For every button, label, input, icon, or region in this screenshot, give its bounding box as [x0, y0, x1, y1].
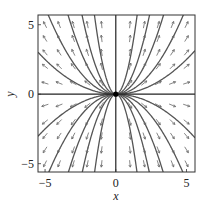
direction-arrow — [169, 81, 175, 84]
direction-arrow — [86, 133, 89, 140]
direction-arrow — [143, 63, 146, 69]
direction-arrow — [185, 161, 188, 167]
direction-arrow — [171, 147, 174, 153]
direction-arrow — [100, 21, 102, 28]
direction-arrow — [184, 50, 188, 55]
direction-arrow — [129, 35, 131, 42]
y-tick-label: −5 — [21, 157, 34, 171]
x-tick-label: 5 — [184, 176, 190, 190]
direction-arrow — [42, 104, 49, 107]
direction-arrow — [57, 50, 61, 56]
direction-arrow — [57, 120, 62, 125]
direction-arrow — [57, 133, 61, 139]
direction-arrow — [185, 36, 189, 42]
direction-arrow — [86, 49, 89, 56]
axis-ticks — [38, 25, 187, 172]
direction-arrow — [58, 21, 61, 27]
direction-arrow — [43, 36, 47, 42]
direction-arrow — [143, 160, 145, 167]
direction-arrow — [169, 104, 175, 107]
direction-arrow — [100, 146, 102, 153]
direction-arrow — [42, 64, 47, 68]
equilibrium-point — [113, 92, 118, 97]
direction-arrow — [72, 133, 75, 139]
direction-arrow — [58, 160, 61, 166]
y-tick-label: 5 — [28, 18, 34, 32]
y-tick-label: 0 — [28, 87, 34, 101]
direction-arrow — [129, 146, 131, 153]
trajectory-curve — [38, 51, 195, 95]
trajectory-curve — [38, 0, 195, 94]
direction-arrow — [170, 133, 174, 139]
axis-tick-labels: −505−505 — [21, 18, 189, 190]
trajectory-curves — [38, 0, 195, 200]
direction-arrow — [43, 50, 47, 55]
direction-arrow — [129, 21, 131, 28]
direction-arrow — [143, 49, 146, 56]
direction-arrow — [185, 22, 188, 28]
direction-arrow — [170, 50, 174, 56]
direction-arrow — [43, 22, 46, 28]
direction-arrow — [129, 63, 131, 70]
direction-arrow — [72, 35, 75, 42]
direction-arrow — [86, 63, 89, 69]
direction-arrow — [129, 160, 131, 167]
trajectory-curve — [38, 0, 195, 94]
x-tick-label: 0 — [113, 176, 119, 190]
trajectory-curve — [38, 0, 195, 94]
direction-arrow — [184, 133, 188, 138]
direction-arrow — [72, 49, 75, 55]
direction-arrow — [100, 35, 102, 42]
direction-arrow — [157, 133, 160, 139]
direction-arrow — [43, 147, 47, 153]
direction-arrow — [86, 160, 88, 167]
direction-arrow — [143, 119, 146, 125]
phase-portrait-figure: −505−505 x y — [0, 0, 202, 209]
y-axis-label: y — [3, 91, 17, 98]
direction-arrow — [170, 64, 175, 69]
direction-arrow — [184, 120, 189, 124]
direction-arrow — [42, 82, 49, 85]
direction-arrow — [100, 63, 102, 70]
direction-arrow — [43, 161, 46, 167]
direction-arrow — [56, 104, 62, 107]
x-axis-label: x — [112, 189, 119, 203]
trajectory-curve — [38, 0, 195, 94]
direction-arrow — [56, 81, 62, 84]
direction-arrow — [100, 160, 102, 167]
direction-arrow — [58, 147, 61, 153]
direction-arrow — [183, 104, 190, 107]
direction-arrow — [185, 147, 189, 153]
direction-arrow — [42, 120, 47, 124]
x-tick-label: −5 — [39, 176, 52, 190]
direction-arrow — [170, 120, 175, 125]
trajectory-curve — [38, 94, 195, 138]
direction-arrow — [157, 49, 160, 55]
direction-arrow — [171, 160, 174, 166]
direction-arrow — [86, 21, 88, 28]
direction-arrow — [143, 21, 145, 28]
direction-arrow — [58, 35, 61, 41]
direction-arrow — [157, 35, 160, 42]
direction-arrow — [184, 64, 189, 68]
direction-arrow — [171, 35, 174, 41]
direction-arrow — [143, 133, 146, 140]
direction-arrow — [171, 21, 174, 27]
direction-arrow — [157, 146, 160, 153]
direction-arrow — [72, 146, 75, 153]
direction-arrow — [57, 64, 62, 69]
direction-arrow — [129, 119, 131, 126]
direction-arrow — [43, 133, 47, 138]
direction-arrow — [86, 119, 89, 125]
direction-arrow — [183, 82, 190, 85]
direction-arrow — [100, 119, 102, 126]
